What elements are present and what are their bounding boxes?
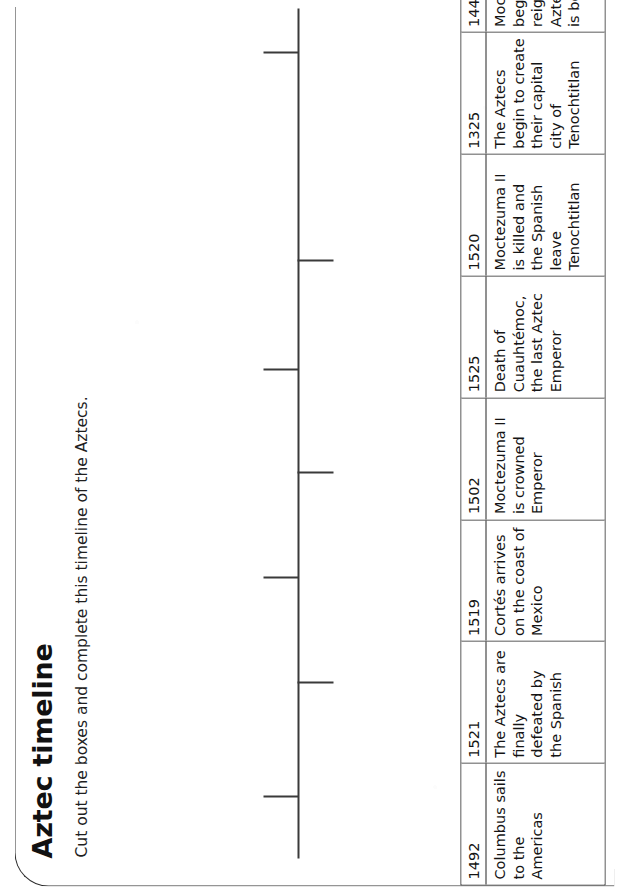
- box-description: The Aztecs begin to create their capital…: [486, 32, 604, 153]
- cut-out-box[interactable]: 1520Moctezuma II is killed and the Spani…: [461, 153, 604, 275]
- timeline-tick-5: [263, 368, 298, 370]
- timeline-tick-2: [297, 681, 333, 683]
- cut-out-box-row: 1492Columbus sails to the Americas1521Th…: [460, 0, 605, 885]
- box-description: Moctezuma II is crowned Emperor: [486, 398, 604, 519]
- box-year: 1502: [461, 398, 486, 519]
- worksheet-sheet: Aztec timeline Cut out the boxes and com…: [0, 0, 621, 894]
- box-year: 1525: [461, 276, 486, 397]
- cut-out-box[interactable]: 1492Columbus sails to the Americas: [461, 762, 604, 884]
- box-year: 1325: [461, 32, 486, 153]
- box-description: Columbus sails to the Americas: [486, 763, 604, 884]
- box-description: Moctezuma I begins his reign and the Azt…: [486, 0, 604, 31]
- cut-out-box[interactable]: 1521The Aztecs are finally defeated by t…: [461, 640, 604, 762]
- timeline-tick-6: [297, 259, 333, 261]
- instruction-text: Cut out the boxes and complete this time…: [72, 396, 90, 857]
- worksheet-page: Aztec timeline Cut out the boxes and com…: [0, 0, 621, 894]
- box-description: The Aztecs are finally defeated by the S…: [486, 641, 604, 762]
- box-year: 1520: [461, 154, 486, 275]
- box-year: 1492: [461, 763, 486, 884]
- cut-out-box[interactable]: 1519Cortés arrives on the coast of Mexic…: [461, 519, 604, 641]
- cut-out-box[interactable]: 1440Moctezuma I begins his reign and the…: [461, 0, 604, 31]
- box-description: Death of Cuauhtémoc, the last Aztec Empe…: [486, 276, 604, 397]
- timeline-tick-3: [263, 576, 298, 578]
- box-description: Cortés arrives on the coast of Mexico: [486, 520, 604, 641]
- cut-out-box[interactable]: 1525Death of Cuauhtémoc, the last Aztec …: [461, 275, 604, 397]
- box-year: 1521: [461, 641, 486, 762]
- box-year: 1519: [461, 520, 486, 641]
- cut-out-box[interactable]: 1502Moctezuma II is crowned Emperor: [461, 397, 604, 519]
- timeline-diagram: [263, 4, 335, 858]
- timeline-tick-4: [297, 471, 333, 473]
- timeline-tick-1: [263, 795, 298, 797]
- box-year: 1440: [461, 0, 486, 31]
- timeline-axis-line: [297, 8, 299, 858]
- box-description: Moctezuma II is killed and the Spanish l…: [486, 154, 604, 275]
- timeline-tick-7: [263, 51, 298, 53]
- page-title: Aztec timeline: [26, 643, 57, 858]
- cut-out-box[interactable]: 1325The Aztecs begin to create their cap…: [461, 31, 604, 153]
